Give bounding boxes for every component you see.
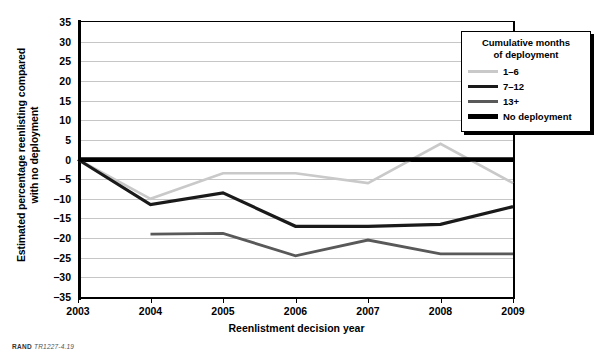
figure-container: Estimated percentage reenlisting compare… — [0, 0, 603, 359]
x-tick-mark — [296, 298, 297, 303]
legend-label: 7–12 — [503, 81, 524, 92]
legend-item: No deployment — [468, 109, 584, 124]
series-line-1-6 — [78, 144, 513, 199]
legend-title-line2: of deployment — [468, 49, 584, 61]
legend-line-sample — [468, 85, 498, 88]
legend-swatch-icon — [468, 114, 498, 119]
legend-label: 1–6 — [503, 66, 519, 77]
x-tick-mark — [151, 298, 152, 303]
legend-item: 1–6 — [468, 64, 584, 79]
legend-swatch-icon — [468, 100, 498, 103]
legend-line-sample — [468, 70, 498, 73]
legend-title-line1: Cumulative months — [468, 37, 584, 49]
x-tick-label: 2003 — [54, 305, 102, 317]
figure-credit: RAND TR1227-4.19 — [12, 343, 74, 350]
x-axis-title: Reenlistment decision year — [78, 322, 515, 334]
x-tick-label: 2009 — [489, 305, 537, 317]
x-tick-label: 2005 — [199, 305, 247, 317]
legend-item: 7–12 — [468, 79, 584, 94]
series-line-7-12 — [78, 160, 513, 227]
legend-swatch-icon — [468, 70, 498, 73]
legend-title: Cumulative months of deployment — [468, 37, 584, 60]
legend-item: 13+ — [468, 94, 584, 109]
x-tick-label: 2007 — [344, 305, 392, 317]
x-tick-mark — [441, 298, 442, 303]
legend-entries: 1–67–1213+No deployment — [468, 64, 584, 124]
legend-swatch-icon — [468, 85, 498, 88]
x-tick-mark — [78, 298, 79, 303]
x-tick-mark — [223, 298, 224, 303]
credit-source: RAND — [12, 343, 32, 350]
legend-line-sample — [468, 100, 498, 103]
x-tick-mark — [368, 298, 369, 303]
x-tick-mark — [513, 298, 514, 303]
legend-label: No deployment — [503, 111, 572, 122]
legend-label: 13+ — [503, 96, 519, 107]
series-line-13- — [151, 233, 514, 255]
credit-id: TR1227-4.19 — [34, 343, 74, 350]
legend: Cumulative months of deployment 1–67–121… — [461, 31, 591, 132]
x-tick-label: 2006 — [272, 305, 320, 317]
x-tick-label: 2008 — [417, 305, 465, 317]
x-tick-label: 2004 — [127, 305, 175, 317]
legend-line-sample — [468, 114, 498, 119]
